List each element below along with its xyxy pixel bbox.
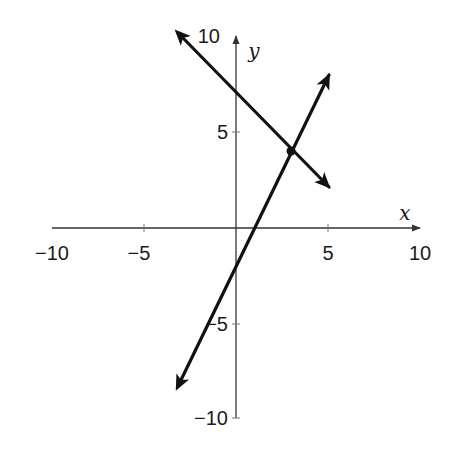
coordinate-plane-chart: −10 −5 5 10 x 10 5 −5 −10 y [0,0,453,456]
y-axis-label: y [247,39,260,63]
x-tick-label-m5: −5 [128,242,151,264]
x-tick-label-5: 5 [322,242,333,264]
x-axis: −10 −5 5 10 x [35,201,431,264]
x-tick-label-10: 10 [409,242,431,264]
intersection-point [287,147,296,156]
x-tick-label-m10: −10 [35,242,69,264]
x-axis-label: x [399,201,410,225]
y-tick-label-10: 10 [198,25,220,47]
y-axis: 10 5 −5 −10 y [194,25,260,429]
y-tick-label-5: 5 [217,121,228,143]
y-tick-label-m10: −10 [194,407,228,429]
